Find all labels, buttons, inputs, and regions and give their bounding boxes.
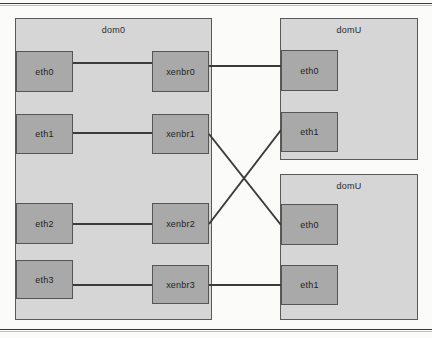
interface-label-domU2-eth1: eth1 (300, 280, 318, 290)
interface-box-domU1-eth1: eth1 (281, 112, 338, 152)
link-xenbr2-domU1-eth1 (209, 130, 281, 224)
domain-label-dom0: dom0 (16, 25, 211, 35)
interface-label-xenbr2: xenbr2 (166, 219, 195, 229)
interface-label-dom0-eth2: eth2 (35, 219, 53, 229)
interface-label-domU1-eth1: eth1 (300, 127, 318, 137)
interface-box-domU2-eth1: eth1 (281, 265, 338, 305)
interface-box-xenbr3: xenbr3 (152, 265, 209, 304)
interface-label-xenbr3: xenbr3 (166, 280, 195, 290)
interface-label-domU2-eth0: eth0 (300, 220, 318, 230)
page-frame-bottom-rule (0, 329, 432, 330)
page-frame-top-rule-secondary (0, 5, 432, 6)
interface-box-xenbr0: xenbr0 (152, 51, 209, 92)
interface-label-domU1-eth0: eth0 (300, 66, 318, 76)
interface-label-xenbr1: xenbr1 (166, 129, 195, 139)
interface-box-dom0-eth3: eth3 (16, 260, 73, 299)
interface-box-xenbr2: xenbr2 (152, 203, 209, 244)
domain-label-domU-top: domU (281, 25, 417, 35)
interface-label-xenbr0: xenbr0 (166, 67, 195, 77)
page-frame-top-rule (0, 3, 432, 4)
interface-box-dom0-eth2: eth2 (16, 203, 73, 244)
interface-box-domU2-eth0: eth0 (281, 204, 338, 245)
interface-label-dom0-eth3: eth3 (35, 275, 53, 285)
diagram-canvas: dom0domUdomU eth0eth1eth2eth3xenbr0xenbr… (0, 0, 432, 338)
domain-label-domU-bottom: domU (281, 181, 417, 191)
link-xenbr1-domU2-eth0 (209, 134, 281, 225)
interface-box-dom0-eth0: eth0 (16, 51, 73, 92)
page-frame-bottom-rule-secondary (0, 331, 432, 332)
interface-box-domU1-eth0: eth0 (281, 50, 338, 91)
interface-box-dom0-eth1: eth1 (16, 114, 73, 154)
interface-label-dom0-eth0: eth0 (35, 67, 53, 77)
interface-box-xenbr1: xenbr1 (152, 114, 209, 154)
interface-label-dom0-eth1: eth1 (35, 129, 53, 139)
